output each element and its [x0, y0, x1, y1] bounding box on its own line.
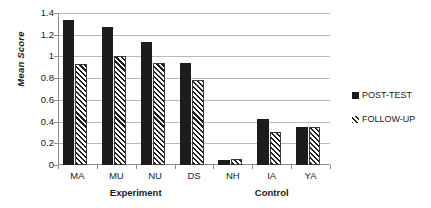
legend-label-post-test: POST-TEST [362, 90, 412, 100]
gridline [58, 56, 330, 57]
legend-swatch-follow-up-icon [352, 116, 359, 123]
x-group-label-control: Control [213, 187, 330, 198]
y-axis-tick-labels: 00.20.40.60.811.21.4 [24, 0, 54, 208]
x-tick-mark [58, 165, 59, 169]
gridline [58, 35, 330, 36]
y-tick-mark [54, 35, 58, 36]
x-tick-mark [136, 165, 137, 169]
y-tick-label: 0.6 [41, 95, 54, 105]
y-tick-label: 0.4 [41, 117, 54, 127]
x-category-label-ya: YA [291, 170, 330, 181]
legend-swatch-post-test-icon [352, 92, 359, 99]
bar-nu-post-test [141, 42, 153, 165]
bar-ma-post-test [63, 20, 75, 165]
bar-ds-follow-up [192, 80, 204, 165]
y-tick-mark [54, 100, 58, 101]
bar-mu-post-test [102, 27, 114, 165]
bar-ia-post-test [257, 119, 269, 165]
x-tick-mark [291, 165, 292, 169]
y-tick-mark [54, 13, 58, 14]
x-tick-mark [175, 165, 176, 169]
x-category-label-nh: NH [213, 170, 252, 181]
chart-legend: POST-TEST FOLLOW-UP [352, 88, 431, 136]
bar-ds-post-test [180, 63, 192, 165]
y-tick-mark [54, 56, 58, 57]
y-tick-label: 1.2 [41, 30, 54, 40]
y-tick-mark [54, 78, 58, 79]
x-category-label-mu: MU [97, 170, 136, 181]
bar-ya-post-test [296, 127, 308, 165]
bar-mu-follow-up [114, 56, 126, 165]
x-category-label-nu: NU [136, 170, 175, 181]
x-tick-mark [330, 165, 331, 169]
gridline [58, 78, 330, 79]
gridline [58, 13, 330, 14]
x-group-label-experiment: Experiment [58, 187, 213, 198]
bar-chart: Mean Score 00.20.40.60.811.21.4 MAMUNUDS… [0, 0, 431, 208]
y-tick-mark [54, 143, 58, 144]
x-category-label-ia: IA [252, 170, 291, 181]
legend-item-follow-up: FOLLOW-UP [352, 112, 431, 126]
y-tick-mark [54, 165, 58, 166]
x-category-label-ma: MA [58, 170, 97, 181]
bar-nu-follow-up [153, 63, 165, 165]
y-axis-line [58, 13, 59, 165]
x-category-label-ds: DS [175, 170, 214, 181]
plot-area [58, 13, 330, 165]
bar-ya-follow-up [309, 127, 321, 165]
legend-item-post-test: POST-TEST [352, 88, 431, 102]
legend-label-follow-up: FOLLOW-UP [362, 114, 415, 124]
x-tick-mark [252, 165, 253, 169]
bar-ia-follow-up [270, 132, 282, 165]
bar-nh-post-test [218, 160, 230, 165]
bar-nh-follow-up [231, 159, 243, 166]
y-tick-mark [54, 122, 58, 123]
y-tick-label: 1.4 [41, 8, 54, 18]
bar-ma-follow-up [75, 64, 87, 165]
y-tick-label: 0.2 [41, 138, 54, 148]
x-tick-mark [97, 165, 98, 169]
x-tick-mark [213, 165, 214, 169]
y-tick-label: 0.8 [41, 73, 54, 83]
